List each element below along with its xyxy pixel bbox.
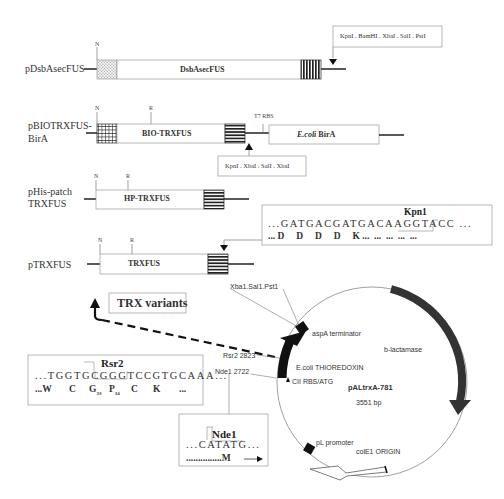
- construct-name-phispatch-line1: pHis-patch: [28, 187, 72, 197]
- construct-name-ptrxfus: pTRXFUS: [28, 260, 71, 270]
- pl-promoter-label: pL promoter: [316, 439, 353, 446]
- marker-r: R: [130, 237, 134, 243]
- bira-prefix: E.coli: [297, 130, 316, 139]
- marker-r: R: [126, 173, 130, 179]
- kpn-protein-sequence: ... D D D D K ... ... ... ... ...: [268, 232, 417, 242]
- construct-name-pdsbasecfus: pDsbAsecFUS: [25, 64, 84, 74]
- t7-rbs-label: T7 RBS: [254, 113, 274, 119]
- nde1-site-label: Nde1 2722: [215, 368, 249, 375]
- rsr-g-index: 33: [96, 391, 101, 396]
- rsr2-label: Rsr2: [101, 358, 124, 369]
- gene-label-trxfus: TRXFUS: [128, 260, 160, 268]
- cii-rbs-label: CII RBS/ATG: [292, 378, 333, 385]
- cole1-origin-label: colE1 ORIGIN: [356, 448, 400, 455]
- gene-label-bio-trxfus: BIO-TRXFUS: [142, 130, 191, 138]
- rsr-protein-w: ...W: [35, 385, 52, 395]
- construct-name-pbiotrxfus-line2: BirA: [28, 134, 48, 144]
- rsr-protein-c: C: [69, 385, 76, 395]
- rsr-protein-c2: C: [131, 385, 138, 395]
- gene-label-hp-trxfus: HP-TRXFUS: [124, 195, 170, 203]
- nde-protein-sequence: ...............M: [186, 454, 231, 464]
- b-lactamase-label: b-lactamase: [384, 346, 422, 353]
- marker-n: N: [94, 173, 98, 179]
- construct-name-phispatch-line2: TRXFUS: [28, 199, 66, 209]
- nde-dna-sequence: ...CATATG...: [186, 440, 260, 451]
- rsr-protein-k: K: [153, 385, 160, 395]
- rsr-protein-p34: P34: [109, 385, 120, 396]
- thioredoxin-label: E.coli THIOREDOXIN: [296, 364, 364, 371]
- rsr-dna-sequence: ...TGGTGCGGGTCCGTGCAAA...: [35, 371, 228, 382]
- kpn-dna-sequence: ...GATGACGATGACAAGGTACC ...: [268, 219, 472, 230]
- construct-ptrxfus: [87, 240, 262, 274]
- marker-n: N: [98, 237, 102, 243]
- rsr-protein-g33: G33: [89, 385, 101, 396]
- aspa-terminator-label: aspA terminator: [312, 330, 361, 337]
- plasmid-name: pALtrxA-781: [348, 384, 393, 392]
- trx-variants-label: TRX variants: [117, 297, 187, 309]
- rsr2-site-label: Rsr2 2823: [223, 352, 255, 359]
- gene-label-dsbasecfus: DsbAsecFUS: [180, 66, 224, 74]
- plasmid-size: 3551 bp: [356, 399, 381, 406]
- marker-n: N: [95, 105, 99, 111]
- diagram-graphics: [0, 0, 504, 499]
- bira-suffix: BirA: [318, 130, 335, 139]
- rsr-p-index: 34: [115, 391, 120, 396]
- cloning-sites-2: KpnI . XbaI . SalI . XbaI: [225, 163, 289, 170]
- cloning-sites-1: KpnI . BamHI . XbaI . SalI . PstI: [340, 33, 426, 40]
- kpn1-label: Kpn1: [404, 208, 427, 218]
- mcs-label: Xba1.Sal1.Pst1: [230, 283, 278, 290]
- marker-r: R: [149, 105, 153, 111]
- construct-name-pbiotrxfus-line1: pBIOTRXFUS-: [28, 121, 92, 131]
- marker-n: N: [95, 41, 99, 47]
- rsr-protein-dots: ...: [179, 385, 186, 395]
